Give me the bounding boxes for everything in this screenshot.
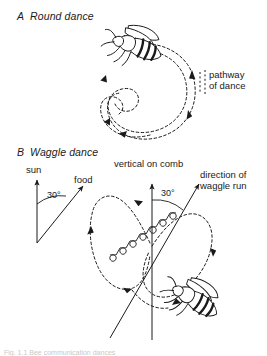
panel-b-title: Waggle dance — [30, 146, 98, 158]
pathway-of-dance-line1: pathway — [209, 69, 265, 80]
panel-a-letter: A — [17, 10, 24, 22]
direction-line2: waggle run — [200, 180, 264, 191]
round-dance-inner-loop — [108, 51, 187, 133]
bee-icon-round-dance — [96, 16, 167, 76]
direction-of-waggle-run-label: direction of waggle run — [200, 169, 264, 191]
vertical-comb-axis-group — [110, 184, 199, 340]
waggle-direction-arrow — [110, 184, 199, 338]
figure-caption-partial: Fig. 1.1 Bee communication dances — [4, 349, 204, 356]
angle-label-right: 30° — [161, 188, 175, 198]
waggle-loop-left — [90, 196, 150, 289]
angle-label-left: 30° — [47, 190, 61, 200]
panel-a-label: ARound dance — [17, 10, 94, 22]
bee-icon-waggle-dance — [153, 264, 228, 332]
panel-b-label: BWaggle dance — [17, 146, 98, 158]
bee-dance-figure: ARound dance pathway of dance BWaggle da… — [0, 0, 267, 356]
panel-b-letter: B — [17, 146, 24, 158]
panel-a-title: Round dance — [30, 10, 94, 22]
direction-line1: direction of — [200, 169, 264, 180]
vertical-on-comb-label: vertical on comb — [114, 158, 183, 169]
pathway-leader-dots — [200, 70, 205, 94]
pathway-of-dance-label: pathway of dance — [209, 69, 265, 91]
zigzag-waggle-run — [110, 213, 176, 262]
angle-arc-right — [152, 200, 183, 210]
sun-label: sun — [26, 164, 41, 175]
food-label: food — [74, 174, 93, 185]
pathway-of-dance-line2: of dance — [209, 80, 265, 91]
